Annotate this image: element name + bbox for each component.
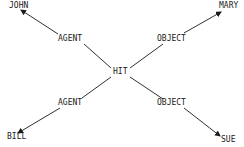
edge-label-object-top: OBJECT: [157, 35, 186, 43]
edge-hit-agent-top: [84, 44, 111, 68]
node-bill: BILL: [7, 133, 26, 141]
edge-label-agent-top: AGENT: [58, 35, 82, 43]
edge-object-sue: [184, 108, 220, 136]
edge-hit-agent-bottom: [82, 77, 111, 98]
node-john: JOHN: [9, 2, 28, 10]
edge-agent-bill: [18, 108, 60, 133]
edge-agent-john: [21, 10, 58, 34]
edge-label-object-bottom: OBJECT: [157, 99, 186, 107]
edge-hit-object-bottom: [130, 77, 163, 99]
edge-label-agent-bottom: AGENT: [58, 99, 82, 107]
node-hit: HIT: [113, 68, 127, 76]
node-sue: SUE: [221, 136, 235, 144]
semantic-network-diagram: JOHN MARY AGENT OBJECT HIT AGENT OBJECT …: [0, 0, 244, 147]
edge-object-mary: [184, 12, 221, 33]
node-mary: MARY: [219, 2, 238, 10]
edge-hit-object-top: [130, 44, 163, 68]
